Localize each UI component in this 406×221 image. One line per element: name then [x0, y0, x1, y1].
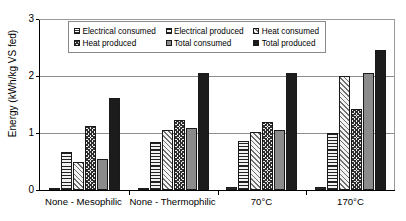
legend-label: Total produced — [262, 39, 316, 48]
bar — [375, 50, 386, 190]
bar — [274, 130, 285, 190]
chart-legend: Electrical consumed Electrical produced … — [68, 21, 326, 53]
legend-item-electrical-consumed: Electrical consumed — [74, 27, 166, 36]
legend-row: Heat produced Total consumed Total produ… — [74, 37, 320, 49]
x-axis-label: None - Mesophilic — [39, 196, 128, 207]
bar — [109, 98, 120, 190]
bar — [73, 162, 84, 191]
legend-row: Electrical consumed Electrical produced … — [74, 25, 320, 37]
legend-swatch-icon — [253, 40, 259, 46]
legend-label: Electrical produced — [174, 27, 244, 36]
legend-item-heat-consumed: Heat consumed — [253, 27, 320, 36]
legend-label: Heat produced — [83, 39, 137, 48]
bar-chart: Energy (kWh/kg VS fed) 0123 None - Mesop… — [0, 0, 406, 221]
legend-item-electrical-produced: Electrical produced — [166, 27, 254, 36]
bar — [85, 126, 96, 190]
bar — [363, 73, 374, 190]
x-axis-labels: None - MesophilicNone - Thermophilic70°C… — [39, 196, 395, 207]
bar — [138, 188, 149, 190]
x-axis-label: 170°C — [306, 196, 395, 207]
x-axis-label: 70°C — [217, 196, 306, 207]
legend-swatch-icon — [74, 40, 80, 46]
legend-item-heat-produced: Heat produced — [74, 39, 166, 48]
legend-swatch-icon — [166, 28, 172, 34]
legend-swatch-icon — [166, 40, 172, 46]
bar — [174, 120, 185, 190]
legend-item-total-consumed: Total consumed — [166, 39, 254, 48]
legend-swatch-icon — [253, 28, 259, 34]
x-axis-label: None - Thermophilic — [128, 196, 217, 207]
y-tick-label: 2 — [14, 70, 34, 81]
bar — [198, 73, 209, 190]
bar — [327, 133, 338, 190]
bar — [238, 141, 249, 190]
legend-label: Heat consumed — [262, 27, 319, 36]
bar — [250, 132, 261, 190]
y-tick-label: 3 — [14, 13, 34, 24]
bar — [162, 130, 173, 190]
bar — [186, 128, 197, 190]
y-tick-mark — [36, 190, 40, 191]
bar — [262, 122, 273, 190]
legend-label: Electrical consumed — [83, 27, 156, 36]
bar — [97, 159, 108, 190]
y-axis-title: Energy (kWh/kg VS fed) — [7, 0, 18, 170]
y-tick-label: 0 — [14, 184, 34, 195]
bar — [315, 187, 326, 190]
bar — [351, 109, 362, 191]
y-tick-label: 1 — [14, 127, 34, 138]
bar — [49, 188, 60, 190]
bar — [339, 76, 350, 190]
bar — [226, 187, 237, 190]
legend-item-total-produced: Total produced — [253, 39, 320, 48]
bar — [150, 142, 161, 190]
legend-label: Total consumed — [174, 39, 231, 48]
bar — [61, 152, 72, 190]
legend-swatch-icon — [74, 28, 80, 34]
bar — [286, 73, 297, 190]
